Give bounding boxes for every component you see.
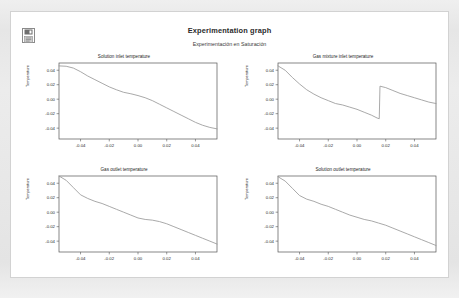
x-tick-label: 0.04 (410, 256, 419, 261)
x-tick-label: 0.04 (191, 256, 200, 261)
chart-plot: -0.04-0.020.000.020.040.040.020.00-0.02-… (25, 59, 223, 154)
x-tick-label: -0.04 (76, 143, 86, 148)
y-tick-label: 0.04 (47, 68, 56, 73)
chart-plot: -0.04-0.020.000.020.040.040.020.00-0.02-… (244, 59, 442, 154)
y-tick-label: 0.00 (266, 210, 275, 215)
y-tick-label: -0.02 (45, 224, 55, 229)
chart-panel-gas-outlet-temperature: Gas outlet temperature Temperature -0.04… (25, 167, 223, 267)
x-tick-label: -0.02 (104, 256, 114, 261)
x-tick-label: 0.00 (353, 143, 362, 148)
report-sheet: Experimentation graph Experimentación en… (10, 11, 449, 278)
page-subtitle: Experimentación en Saturación (11, 41, 448, 47)
x-tick-label: -0.02 (104, 143, 114, 148)
x-tick-label: 0.00 (134, 256, 143, 261)
y-tick-label: 0.04 (266, 68, 275, 73)
y-tick-label: -0.04 (264, 239, 274, 244)
chart-plot: -0.04-0.020.000.020.040.040.020.00-0.02-… (25, 172, 223, 267)
plot-frame (59, 63, 217, 139)
x-tick-label: 0.00 (353, 256, 362, 261)
y-tick-label: 0.00 (47, 210, 56, 215)
y-tick-label: 0.00 (47, 97, 56, 102)
x-tick-label: 0.00 (134, 143, 143, 148)
y-tick-label: -0.02 (264, 224, 274, 229)
x-tick-label: 0.02 (382, 256, 391, 261)
plot-frame (278, 176, 436, 252)
y-tick-label: -0.04 (45, 239, 55, 244)
y-tick-label: 0.00 (266, 97, 275, 102)
screenshot-root: Experimentation graph Experimentación en… (0, 0, 459, 298)
x-tick-label: 0.02 (163, 143, 172, 148)
x-tick-label: 0.02 (382, 143, 391, 148)
y-tick-label: -0.04 (45, 126, 55, 131)
y-tick-label: 0.02 (266, 195, 275, 200)
x-tick-label: -0.02 (323, 256, 333, 261)
x-tick-label: 0.02 (163, 256, 172, 261)
y-tick-label: 0.04 (266, 181, 275, 186)
series-line (59, 66, 217, 129)
x-tick-label: -0.04 (295, 143, 305, 148)
page-title: Experimentation graph (11, 26, 448, 35)
chart-plot: -0.04-0.020.000.020.040.040.020.00-0.02-… (244, 172, 442, 267)
chart-panel-solution-outlet-temperature: Solution outlet temperature Temperature … (244, 167, 442, 267)
y-tick-label: -0.02 (45, 111, 55, 116)
series-line (278, 66, 436, 119)
series-line (278, 177, 436, 246)
y-tick-label: 0.02 (47, 195, 56, 200)
y-tick-label: -0.02 (264, 111, 274, 116)
x-tick-label: -0.04 (295, 256, 305, 261)
x-tick-label: -0.04 (76, 256, 86, 261)
y-tick-label: -0.04 (264, 126, 274, 131)
plot-frame (59, 176, 217, 252)
chart-panel-solution-inlet-temperature: Solution inlet temperature Temperature -… (25, 54, 223, 154)
plot-frame (278, 63, 436, 139)
series-line (59, 176, 217, 244)
y-tick-label: 0.02 (266, 82, 275, 87)
y-tick-label: 0.04 (47, 181, 56, 186)
x-tick-label: 0.04 (410, 143, 419, 148)
x-tick-label: -0.02 (323, 143, 333, 148)
y-tick-label: 0.02 (47, 82, 56, 87)
x-tick-label: 0.04 (191, 143, 200, 148)
chart-panel-gas-mixture-inlet-temperature: Gas mixture inlet temperature Temperatur… (244, 54, 442, 154)
